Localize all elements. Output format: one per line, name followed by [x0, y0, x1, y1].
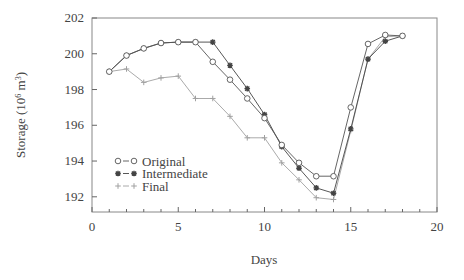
circle-marker [227, 77, 233, 83]
y-tick-label: 196 [65, 117, 85, 132]
circle-marker [124, 53, 130, 59]
asterisk-marker [227, 63, 233, 69]
circle-marker [131, 158, 137, 164]
x-tick-label: 20 [431, 219, 444, 234]
y-tick-label: 192 [65, 189, 85, 204]
legend: OriginalIntermediateFinal [115, 154, 208, 194]
circle-marker [331, 173, 337, 179]
circle-marker [115, 158, 121, 164]
y-tick-label: 194 [65, 153, 85, 168]
plus-marker [331, 197, 337, 203]
circle-marker [279, 142, 285, 148]
x-tick-label: 10 [258, 219, 271, 234]
circle-marker [158, 40, 164, 46]
x-axis-title: Days [251, 252, 278, 267]
legend-label: Final [142, 179, 169, 194]
plus-marker [158, 75, 164, 81]
y-axis-title: Storage (106 m3) [13, 72, 28, 158]
circle-marker [106, 69, 112, 75]
x-tick-label: 5 [175, 219, 182, 234]
plus-marker [131, 183, 137, 189]
asterisk-marker [365, 56, 371, 62]
asterisk-marker [348, 126, 354, 132]
circle-marker [244, 96, 250, 102]
y-tick-label: 202 [65, 10, 85, 25]
x-tick-label: 15 [344, 219, 357, 234]
line-chart: 05101520192194196198200202 OriginalInter… [0, 0, 464, 280]
asterisk-marker [296, 165, 302, 171]
circle-marker [210, 59, 216, 65]
asterisk-marker [210, 39, 216, 45]
plus-marker [262, 135, 268, 141]
circle-marker [296, 160, 302, 166]
circle-marker [193, 39, 199, 45]
legend-item-final: Final [115, 179, 169, 194]
y-tick-label: 200 [65, 46, 85, 61]
asterisk-marker [331, 190, 337, 196]
x-tick-label: 0 [89, 219, 96, 234]
asterisk-marker [382, 38, 388, 44]
circle-marker [400, 33, 406, 39]
asterisk-marker [244, 86, 250, 92]
circle-marker [313, 173, 319, 179]
circle-marker [262, 115, 268, 121]
plus-marker [115, 183, 121, 189]
asterisk-marker [131, 171, 137, 177]
circle-marker [175, 39, 181, 45]
circle-marker [348, 105, 354, 111]
asterisk-marker [313, 185, 319, 191]
asterisk-marker [115, 171, 121, 177]
y-tick-label: 198 [65, 82, 85, 97]
circle-marker [141, 46, 147, 52]
circle-marker [365, 41, 371, 47]
circle-marker [382, 32, 388, 38]
